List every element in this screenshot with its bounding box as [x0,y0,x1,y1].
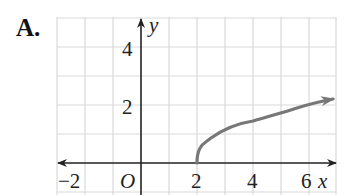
y-axis-label: y [147,13,159,37]
function-curve [197,99,333,163]
x-tick-6: 6 [301,169,312,193]
x-tick-4: 4 [247,169,258,193]
y-tick-2: 2 [122,95,133,119]
graph: 4 2 −2 O 2 4 6 x y [0,0,350,195]
x-tick-2: 2 [191,169,202,193]
y-tick-4: 4 [122,37,133,61]
origin-label: O [120,169,135,193]
x-tick-neg2: −2 [58,169,80,193]
x-axis-label: x [317,169,328,193]
